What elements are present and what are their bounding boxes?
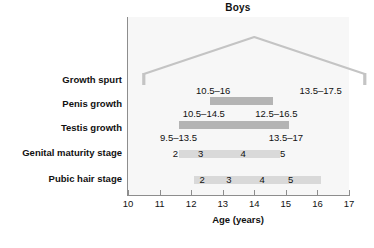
x-tick-label-13: 13 [208,198,238,209]
x-tick-label-14: 14 [239,198,269,209]
x-tick-16 [317,190,318,196]
stage-label-genital-2: 2 [165,148,185,159]
x-tick-17 [349,190,350,196]
bar-penis-growth [210,97,273,105]
x-tick-label-15: 15 [271,198,301,209]
stage-label-pubic-3: 3 [219,174,239,185]
annotation-growth-spurt-right: 13.5–17.5 [281,85,361,96]
x-tick-label-16: 16 [302,198,332,209]
x-tick-13 [223,190,224,196]
x-tick-15 [286,190,287,196]
annotation-testis-right: 13.5–17 [246,132,326,143]
puberty-timeline-chart: Boys 1011121314151617 Age (years) Growth… [0,0,374,248]
x-tick-10 [128,190,129,196]
x-tick-label-10: 10 [113,198,143,209]
annotation-penis-right: 12.5–16.5 [236,108,316,119]
x-tick-label-11: 11 [145,198,175,209]
annotation-growth-spurt-left: 10.5–16 [173,85,253,96]
x-tick-14 [254,190,255,196]
annotation-penis-left: 10.5–14.5 [164,108,244,119]
row-label-pubic-hair-stage: Pubic hair stage [0,173,122,184]
x-tick-11 [160,190,161,196]
x-axis-label: Age (years) [178,214,298,225]
x-tick-12 [191,190,192,196]
stage-label-pubic-2: 2 [192,174,212,185]
stage-label-pubic-5: 5 [281,174,301,185]
stage-label-pubic-4: 4 [252,174,272,185]
row-label-testis-growth: Testis growth [0,122,122,133]
bar-testis-growth [179,121,290,129]
row-label-genital-maturity-stage: Genital maturity stage [0,147,122,158]
x-tick-label-12: 12 [176,198,206,209]
row-label-penis-growth: Penis growth [0,98,122,109]
x-tick-label-17: 17 [334,198,364,209]
stage-label-genital-5: 5 [273,148,293,159]
row-label-growth-spurt: Growth spurt [0,74,122,85]
stage-label-genital-3: 3 [191,148,211,159]
stage-label-genital-4: 4 [233,148,253,159]
annotation-testis-left: 9.5–13.5 [139,132,219,143]
y-axis-line [127,17,128,195]
